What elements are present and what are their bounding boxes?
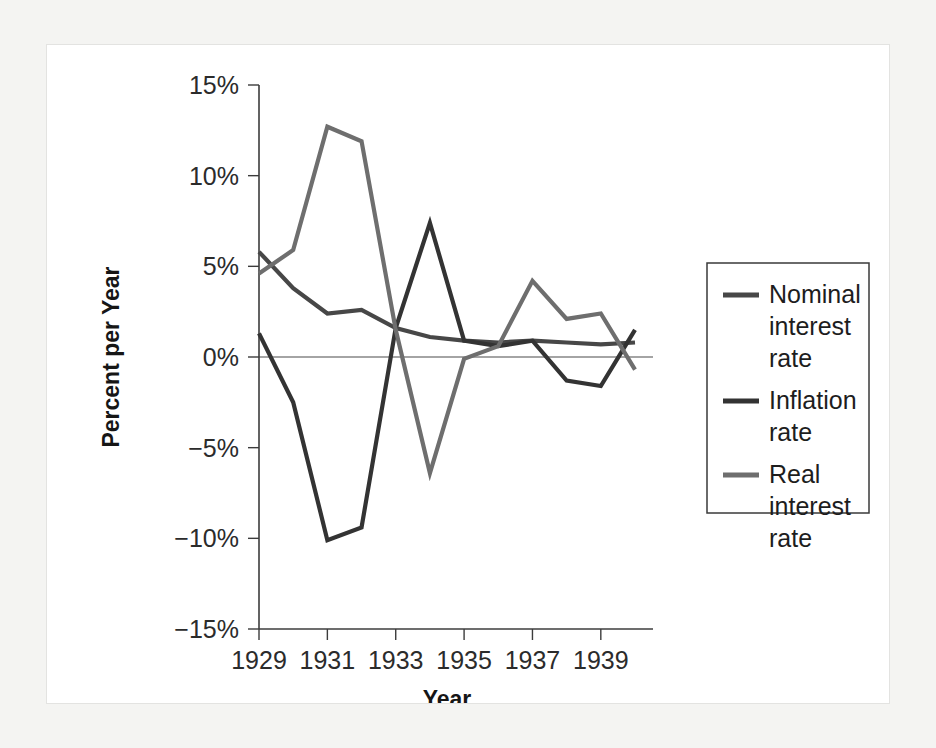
x-tick-label: 1935 <box>436 646 492 674</box>
chart-plate: −15%−10%−5%0%5%10%15% 192919311933193519… <box>46 44 890 704</box>
y-tick-label: 5% <box>203 252 239 280</box>
y-tick-label: 0% <box>203 343 239 371</box>
series-line-2 <box>259 127 635 473</box>
y-tick-label: 15% <box>189 71 239 99</box>
x-axis-ticks: 192919311933193519371939 <box>231 629 628 674</box>
legend-label-1: Inflation <box>769 386 857 414</box>
y-axis-ticks: −15%−10%−5%0%5%10%15% <box>174 71 259 643</box>
x-tick-label: 1937 <box>505 646 561 674</box>
y-tick-label: 10% <box>189 162 239 190</box>
x-tick-label: 1933 <box>368 646 424 674</box>
y-tick-label: −5% <box>188 434 239 462</box>
y-tick-label: −10% <box>174 524 239 552</box>
legend: NominalinterestrateInflationrateRealinte… <box>707 263 869 552</box>
figure-root: −15%−10%−5%0%5%10%15% 192919311933193519… <box>0 0 936 748</box>
legend-label-0: Nominal <box>769 280 861 308</box>
series-lines <box>259 127 635 540</box>
legend-label-0: interest <box>769 312 851 340</box>
x-axis-title: Year <box>423 686 472 703</box>
legend-label-1: rate <box>769 418 812 446</box>
legend-label-0: rate <box>769 344 812 372</box>
legend-label-2: interest <box>769 492 851 520</box>
legend-label-2: Real <box>769 460 820 488</box>
x-tick-label: 1931 <box>300 646 356 674</box>
legend-label-2: rate <box>769 524 812 552</box>
series-line-0 <box>259 252 635 344</box>
line-chart: −15%−10%−5%0%5%10%15% 192919311933193519… <box>47 45 889 703</box>
series-line-1 <box>259 223 635 540</box>
y-tick-label: −15% <box>174 615 239 643</box>
x-tick-label: 1939 <box>573 646 629 674</box>
y-axis-title: Percent per Year <box>98 266 124 447</box>
x-tick-label: 1929 <box>231 646 287 674</box>
